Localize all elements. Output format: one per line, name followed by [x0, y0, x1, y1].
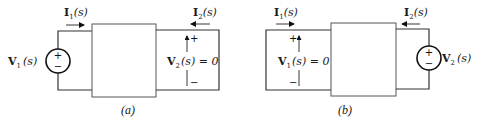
- port1-b-voltage-label: V1(s) = 0: [277, 55, 329, 70]
- source-a-minus: −: [54, 61, 62, 72]
- port1-b-minus: −: [289, 77, 297, 88]
- two-port-network-b: [331, 23, 396, 96]
- wire-a-left-bottom: [58, 73, 92, 90]
- source-a-label: V1(s): [7, 55, 37, 70]
- circuit-b: + − V2(s) I1(s) I2(s) + − V1(s) = 0 (b): [266, 6, 471, 117]
- source-b-label: V2(s): [441, 52, 471, 67]
- port1-b-plus: +: [289, 33, 297, 44]
- circuit-a: + − V1(s) I1(s) I2(s) + − V2(s) = 0 (a): [7, 6, 219, 117]
- port2-a-minus: −: [190, 77, 198, 88]
- caption-a: (a): [121, 103, 135, 117]
- voltage-source-a-icon: + −: [46, 49, 70, 73]
- source-b-plus: +: [425, 47, 433, 58]
- current-b-in-label: I1(s): [274, 6, 298, 21]
- wire-b-right-top: [396, 29, 429, 46]
- voltage-source-b-icon: + −: [417, 46, 441, 70]
- source-b-minus: −: [425, 58, 433, 69]
- two-port-test-circuits: + − V1(s) I1(s) I2(s) + − V2(s) = 0 (a) …: [0, 0, 484, 128]
- port2-a-voltage-label: V2(s) = 0: [166, 55, 218, 70]
- wire-a-left-top: [58, 31, 92, 49]
- two-port-network-a: [92, 24, 156, 97]
- current-a-in-label: I1(s): [64, 6, 88, 21]
- source-a-plus: +: [54, 50, 62, 61]
- port2-a-plus: +: [190, 33, 198, 44]
- current-b-out-label: I2(s): [404, 6, 428, 21]
- wire-b-right-bottom: [396, 70, 429, 89]
- current-a-out-label: I2(s): [193, 6, 217, 21]
- caption-b: (b): [338, 103, 352, 117]
